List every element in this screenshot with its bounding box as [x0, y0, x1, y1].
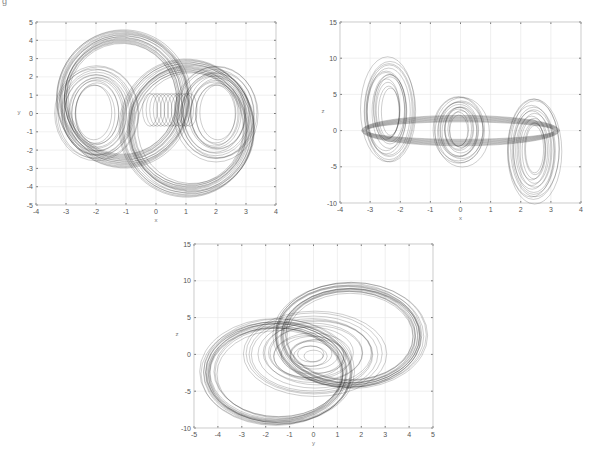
- x-tick-label: -5: [191, 431, 197, 438]
- y-axis-label: z: [176, 331, 179, 337]
- x-tick-label: 3: [383, 431, 387, 438]
- x-axis-label: y: [312, 440, 315, 446]
- plot-xz-svg: -4-3-2-101234-10-5051015xz: [300, 0, 603, 225]
- plot-xy-svg: -4-3-2-101234-5-4-3-2-1012345xy: [0, 0, 300, 225]
- plot-xy: -4-3-2-101234-5-4-3-2-1012345xy: [0, 0, 300, 225]
- x-axis-label: x: [459, 215, 462, 221]
- x-tick-label: 0: [312, 431, 316, 438]
- x-tick-label: -1: [123, 208, 129, 215]
- y-tick-label: 0: [29, 110, 33, 117]
- y-tick-label: 0: [187, 351, 191, 358]
- y-tick-label: -5: [185, 388, 191, 395]
- y-tick-label: -2: [27, 147, 33, 154]
- x-tick-label: -4: [215, 431, 221, 438]
- x-tick-label: 2: [519, 206, 523, 213]
- plot-yz: -5-4-3-2-1012345-10-5051015yz: [150, 230, 460, 458]
- x-tick-label: 0: [154, 208, 158, 215]
- x-tick-label: -2: [93, 208, 99, 215]
- x-tick-label: 1: [335, 431, 339, 438]
- x-tick-label: -3: [367, 206, 373, 213]
- y-tick-label: 1: [29, 92, 33, 99]
- y-tick-label: 10: [183, 277, 191, 284]
- y-tick-label: -10: [181, 425, 191, 432]
- y-tick-label: 10: [329, 55, 337, 62]
- y-tick-label: 3: [29, 55, 33, 62]
- x-tick-label: -2: [397, 206, 403, 213]
- y-tick-label: -4: [27, 183, 33, 190]
- x-tick-label: 3: [244, 208, 248, 215]
- x-tick-label: 2: [359, 431, 363, 438]
- y-tick-label: 4: [29, 37, 33, 44]
- x-tick-label: 4: [579, 206, 583, 213]
- y-tick-label: 0: [333, 127, 337, 134]
- x-tick-label: -1: [286, 431, 292, 438]
- y-axis-label: z: [322, 108, 325, 114]
- y-tick-label: 2: [29, 73, 33, 80]
- x-tick-label: 5: [431, 431, 435, 438]
- x-tick-label: -4: [337, 206, 343, 213]
- x-tick-label: -3: [63, 208, 69, 215]
- x-tick-label: -2: [263, 431, 269, 438]
- x-tick-label: -1: [427, 206, 433, 213]
- x-tick-label: 4: [274, 208, 278, 215]
- y-tick-label: 15: [183, 241, 191, 248]
- x-tick-label: 1: [184, 208, 188, 215]
- y-tick-label: -10: [327, 200, 337, 207]
- x-tick-label: -4: [33, 208, 39, 215]
- plot-xz: -4-3-2-101234-10-5051015xz: [300, 0, 603, 225]
- x-tick-label: 2: [214, 208, 218, 215]
- plot-yz-svg: -5-4-3-2-1012345-10-5051015yz: [150, 230, 460, 458]
- y-tick-label: -5: [27, 202, 33, 209]
- x-tick-label: -3: [239, 431, 245, 438]
- x-tick-label: 4: [407, 431, 411, 438]
- y-tick-label: 5: [29, 19, 33, 26]
- x-tick-label: 3: [549, 206, 553, 213]
- y-tick-label: -3: [27, 165, 33, 172]
- x-tick-label: 0: [459, 206, 463, 213]
- x-tick-label: 1: [489, 206, 493, 213]
- y-tick-label: 5: [187, 314, 191, 321]
- y-tick-label: -5: [331, 163, 337, 170]
- y-tick-label: -1: [27, 128, 33, 135]
- y-tick-label: 5: [333, 91, 337, 98]
- x-axis-label: x: [155, 217, 158, 223]
- y-axis-label: y: [18, 109, 21, 115]
- y-tick-label: 15: [329, 19, 337, 26]
